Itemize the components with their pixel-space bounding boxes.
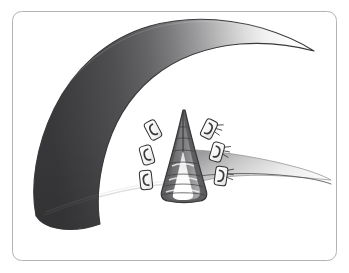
clip-body [214,166,229,186]
clip-left-3[interactable] [139,170,153,190]
clip-body [139,170,153,190]
figure-root: Surgical repair illustration Grayscale m… [0,0,349,273]
illustration-canvas [0,0,349,273]
